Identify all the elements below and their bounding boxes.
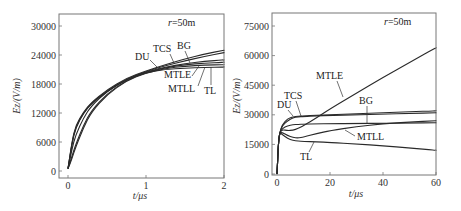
- right-label-mtle: MTLE: [316, 70, 343, 81]
- x-tick-label: 20: [325, 177, 335, 188]
- right-y-axis-label: Ez/(V/m): [231, 78, 243, 115]
- x-tick-label: 0: [66, 180, 71, 191]
- left-label-du: DU: [135, 51, 150, 62]
- x-tick-label: 2: [222, 180, 227, 191]
- right-annotation: r=50m: [384, 16, 412, 27]
- y-tick-label: 30000: [244, 109, 269, 120]
- right-leader-mtll: [345, 130, 355, 136]
- right-leader-tcs: [296, 101, 301, 116]
- y-tick-label: 0: [51, 166, 56, 177]
- left-label-tl: TL: [204, 85, 216, 96]
- y-tick-label: 6000: [36, 137, 56, 148]
- right-x-axis-label: t/μs: [349, 188, 364, 199]
- curve-du: [277, 111, 436, 174]
- y-tick-label: 0: [264, 169, 269, 180]
- right-label-tcs: TCS: [284, 90, 302, 101]
- left-y-ticks: 0600012000180002400030000: [31, 21, 62, 177]
- curve-mtll: [277, 121, 436, 174]
- y-tick-label: 15000: [244, 139, 269, 150]
- curve-bg: [68, 53, 224, 169]
- x-tick-label: 0: [275, 177, 280, 188]
- y-tick-label: 75000: [244, 21, 269, 32]
- right-label-mtll: MTLL: [357, 131, 384, 142]
- right-x-ticks: 0204060: [275, 172, 442, 188]
- y-tick-label: 30000: [31, 21, 56, 32]
- y-tick-label: 12000: [31, 108, 56, 119]
- right-label-tl: TL: [300, 151, 312, 162]
- left-label-mtle: MTLE: [164, 69, 191, 80]
- right-leader-mtle: [337, 81, 343, 97]
- left-label-bg: BG: [177, 40, 191, 51]
- right-chart: 01500030000450006000075000 0204060 r=50m…: [231, 13, 441, 199]
- figure: 0600012000180002400030000 012 r=50m t/μs…: [0, 0, 461, 211]
- left-curves: [68, 50, 224, 168]
- curve-du: [68, 60, 224, 169]
- left-chart: 0600012000180002400030000 012 r=50m t/μs…: [11, 14, 227, 201]
- right-leader-du: [288, 110, 293, 116]
- left-y-axis-label: Ez/(V/m): [11, 78, 23, 115]
- right-label-bg: BG: [359, 95, 373, 106]
- left-annotation: r=50m: [168, 17, 196, 28]
- x-tick-label: 40: [378, 177, 388, 188]
- y-tick-label: 18000: [31, 79, 56, 90]
- left-leader-mtll: [198, 67, 205, 86]
- y-tick-label: 45000: [244, 80, 269, 91]
- curve-mtll: [68, 65, 224, 169]
- left-leader-tcs: [170, 54, 174, 63]
- left-x-ticks: 012: [66, 175, 227, 191]
- left-x-axis-label: t/μs: [133, 190, 148, 201]
- x-tick-label: 60: [431, 177, 441, 188]
- right-y-ticks: 01500030000450006000075000: [244, 21, 275, 180]
- left-plot-frame: [59, 14, 224, 178]
- y-tick-label: 24000: [31, 50, 56, 61]
- left-label-mtll: MTLL: [168, 83, 195, 94]
- y-tick-label: 60000: [244, 50, 269, 61]
- curve-tl: [68, 67, 224, 169]
- left-label-tcs: TCS: [153, 43, 171, 54]
